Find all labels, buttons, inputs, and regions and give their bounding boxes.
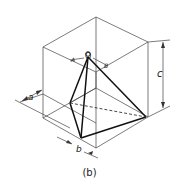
box-outline bbox=[43, 17, 148, 148]
label-edge-a: A bbox=[70, 56, 75, 63]
label-edge-b: B bbox=[104, 62, 108, 69]
label-dimension-c: c bbox=[157, 68, 163, 79]
label-dimension-a: a bbox=[28, 92, 34, 102]
isometric-box-pyramid-diagram: O A B c a b bbox=[0, 0, 179, 190]
label-apex-o: O bbox=[85, 52, 91, 61]
figure-caption: (b) bbox=[0, 167, 179, 178]
dimension-a bbox=[15, 90, 70, 128]
label-dimension-b: b bbox=[76, 144, 82, 154]
